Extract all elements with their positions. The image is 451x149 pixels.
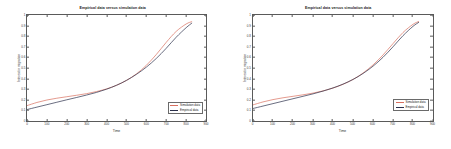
y-tick-label: 1 <box>249 14 251 17</box>
y-tick-mark <box>430 110 432 111</box>
x-tick-mark <box>252 119 253 121</box>
x-tick-mark <box>312 15 313 17</box>
x-tick-mark <box>292 119 293 121</box>
series-line <box>27 23 192 110</box>
x-tick-label: 200 <box>64 123 69 126</box>
series-group-right <box>253 21 419 108</box>
x-tick-mark <box>432 15 433 17</box>
y-tick-mark <box>253 46 255 47</box>
x-axis-label-left: Time <box>27 130 206 133</box>
y-tick-label: 0.4 <box>21 77 25 80</box>
y-tick-mark <box>204 36 206 37</box>
y-tick-label: 0.2 <box>21 98 25 101</box>
x-tick-label: 700 <box>164 123 169 126</box>
x-tick-label: 500 <box>124 123 129 126</box>
x-tick-mark <box>252 15 253 17</box>
chart-title-right: Empirical data versus simulation data <box>226 7 451 11</box>
y-tick-label: 0.1 <box>247 109 251 112</box>
chart-panel-left: Empirical data versus simulation data In… <box>0 0 226 149</box>
x-tick-label: 600 <box>144 123 149 126</box>
x-tick-mark <box>186 15 187 17</box>
y-tick-mark <box>253 68 255 69</box>
legend-entry-empirical-left: Empirical data <box>170 109 200 112</box>
x-tick-mark <box>332 119 333 121</box>
x-tick-label: 900 <box>203 123 208 126</box>
x-tick-label: 100 <box>44 123 49 126</box>
x-tick-mark <box>146 119 147 121</box>
x-tick-mark <box>27 15 28 17</box>
y-tick-label: 0.9 <box>21 24 25 27</box>
legend-label-simulation: Simulation data <box>406 101 426 104</box>
x-tick-mark <box>392 15 393 17</box>
x-tick-mark <box>126 119 127 121</box>
legend-right: Simulation data Empirical data <box>393 99 428 111</box>
x-tick-mark <box>292 15 293 17</box>
x-tick-mark <box>312 119 313 121</box>
y-tick-mark <box>204 78 206 79</box>
legend-swatch-simulation-icon <box>396 102 404 103</box>
x-tick-label: 900 <box>430 123 435 126</box>
y-tick-label: 0.5 <box>247 67 251 70</box>
y-tick-mark <box>27 36 29 37</box>
y-tick-mark <box>204 110 206 111</box>
y-tick-label: 0.3 <box>247 88 251 91</box>
x-tick-label: 600 <box>370 123 375 126</box>
x-tick-mark <box>186 119 187 121</box>
y-tick-label: 0.6 <box>247 56 251 59</box>
x-tick-mark <box>146 15 147 17</box>
x-tick-mark <box>432 119 433 121</box>
x-tick-mark <box>412 15 413 17</box>
x-tick-label: 0 <box>26 123 28 126</box>
x-tick-label: 200 <box>290 123 295 126</box>
y-tick-mark <box>27 99 29 100</box>
y-tick-label: 0.8 <box>21 35 25 38</box>
x-tick-mark <box>126 15 127 17</box>
legend-swatch-empirical-icon <box>170 110 178 111</box>
y-tick-mark <box>204 89 206 90</box>
y-tick-label: 0.6 <box>21 56 25 59</box>
x-tick-mark <box>66 15 67 17</box>
series-group-left <box>27 22 192 110</box>
y-tick-mark <box>430 99 432 100</box>
y-tick-mark <box>27 78 29 79</box>
x-tick-label: 800 <box>184 123 189 126</box>
x-tick-label: 0 <box>252 123 254 126</box>
x-tick-mark <box>27 119 28 121</box>
y-tick-mark <box>204 57 206 58</box>
x-tick-label: 700 <box>390 123 395 126</box>
x-tick-label: 800 <box>410 123 415 126</box>
y-tick-mark <box>204 99 206 100</box>
legend-label-simulation: Simulation data <box>180 104 200 107</box>
y-tick-mark <box>253 89 255 90</box>
series-line <box>27 22 192 106</box>
y-tick-label: 0.8 <box>247 35 251 38</box>
x-tick-mark <box>372 15 373 17</box>
y-tick-label: 1 <box>24 14 26 17</box>
y-tick-mark <box>430 89 432 90</box>
x-tick-mark <box>86 119 87 121</box>
x-tick-label: 300 <box>310 123 315 126</box>
legend-entry-empirical-right: Empirical data <box>396 106 426 109</box>
x-tick-label: 100 <box>270 123 275 126</box>
y-tick-mark <box>204 46 206 47</box>
y-tick-mark <box>253 25 255 26</box>
x-tick-mark <box>392 119 393 121</box>
y-tick-label: 0 <box>249 120 251 123</box>
legend-entry-simulation-right: Simulation data <box>396 101 426 104</box>
y-tick-mark <box>253 78 255 79</box>
x-tick-mark <box>66 119 67 121</box>
x-tick-label: 400 <box>104 123 109 126</box>
y-tick-label: 0.2 <box>247 98 251 101</box>
figure-row: Empirical data versus simulation data In… <box>0 0 451 149</box>
x-tick-mark <box>47 119 48 121</box>
x-axis-label-right: Time <box>253 130 433 133</box>
y-tick-label: 0.4 <box>247 77 251 80</box>
x-tick-mark <box>332 15 333 17</box>
y-tick-mark <box>27 46 29 47</box>
x-tick-mark <box>272 15 273 17</box>
plot-area-left: Interest in migration Time Simulation da… <box>26 14 207 122</box>
y-tick-mark <box>253 110 255 111</box>
y-tick-mark <box>430 36 432 37</box>
x-tick-mark <box>206 15 207 17</box>
chart-panel-right: Empirical data versus simulation data In… <box>226 0 451 149</box>
